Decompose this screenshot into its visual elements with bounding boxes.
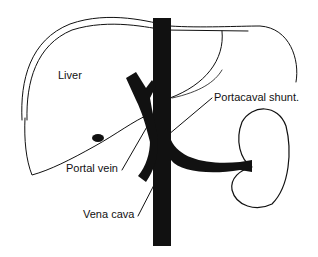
kidney-outline xyxy=(232,109,289,208)
diagram-drawing xyxy=(0,0,318,257)
liver-nodule xyxy=(92,134,104,142)
liver-right-lobe xyxy=(170,31,222,98)
label-liver: Liver xyxy=(58,70,82,81)
leader-portal-vein xyxy=(122,125,148,170)
renal-vein-shape xyxy=(171,140,252,172)
leader-portacaval xyxy=(168,98,212,135)
label-vena-cava: Vena cava xyxy=(83,209,134,220)
leader-vena-cava xyxy=(138,185,154,216)
label-portal-vein: Portal vein xyxy=(66,163,118,174)
label-portacaval-shunt: Portacaval shunt. xyxy=(214,92,299,103)
portacaval-shunt-diagram: Liver Portacaval shunt. Portal vein Vena… xyxy=(0,0,318,257)
